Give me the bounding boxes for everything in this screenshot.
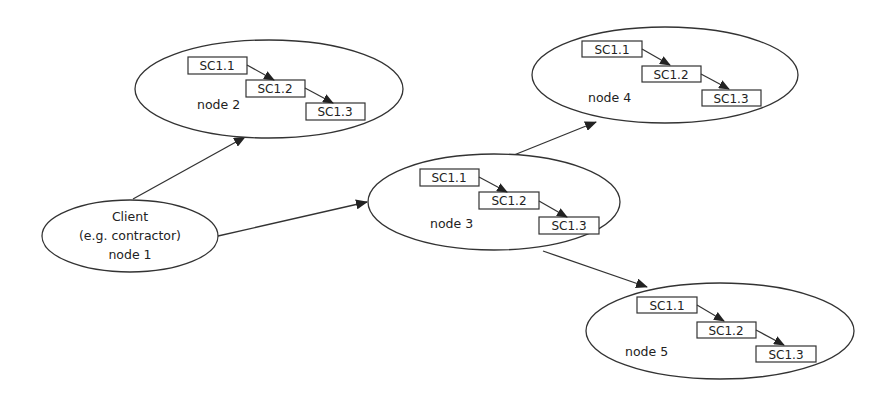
step-label: SC1.2 [708, 324, 743, 338]
step-label: SC1.2 [257, 82, 292, 96]
node-1[interactable]: Client (e.g. contractor) node 1 [42, 200, 218, 272]
step-label: SC1.3 [713, 92, 748, 106]
step-label: SC1.1 [431, 171, 466, 185]
node-1-label: node 1 [108, 247, 151, 262]
node-4-label: node 4 [588, 90, 631, 105]
node-5-label: node 5 [625, 344, 668, 359]
edge-node3-node4 [514, 122, 596, 155]
diagram-svg: Client (e.g. contractor) node 1 SC1.1 SC… [0, 0, 894, 393]
edge-node1-node3 [218, 202, 367, 236]
node-1-subtitle: (e.g. contractor) [79, 228, 181, 243]
step-label: SC1.1 [649, 299, 684, 313]
node-3-label: node 3 [430, 216, 473, 231]
node-4[interactable]: SC1.1 SC1.2 SC1.3 node 4 [532, 27, 798, 123]
step-label: SC1.1 [594, 43, 629, 57]
edge-node1-node2 [133, 137, 245, 199]
step-label: SC1.2 [491, 194, 526, 208]
edge-node3-node5 [543, 251, 647, 287]
node-1-title: Client [112, 209, 148, 224]
node-2[interactable]: SC1.1 SC1.2 SC1.3 node 2 [135, 40, 403, 138]
step-label: SC1.3 [768, 348, 803, 362]
step-label: SC1.2 [653, 68, 688, 82]
node-2-label: node 2 [197, 97, 240, 112]
step-label: SC1.1 [199, 59, 234, 73]
diagram-canvas: Client (e.g. contractor) node 1 SC1.1 SC… [0, 0, 894, 393]
node-3[interactable]: SC1.1 SC1.2 SC1.3 node 3 [368, 154, 620, 250]
step-label: SC1.3 [551, 219, 586, 233]
step-label: SC1.3 [317, 105, 352, 119]
node-5[interactable]: SC1.1 SC1.2 SC1.3 node 5 [586, 283, 854, 379]
